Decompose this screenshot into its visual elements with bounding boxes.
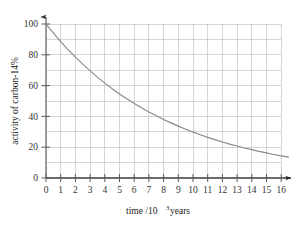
x-tick-label: 13 bbox=[232, 185, 242, 195]
y-tick-label: 0 bbox=[33, 173, 38, 183]
x-tick-label: 15 bbox=[262, 185, 272, 195]
x-tick-label: 1 bbox=[58, 185, 63, 195]
x-axis-title-tail: years bbox=[170, 206, 190, 216]
y-tick-label: 100 bbox=[24, 19, 39, 29]
x-tick-label: 11 bbox=[203, 185, 212, 195]
y-axis-title: activity of carbon-14% bbox=[10, 57, 20, 145]
x-tick-label: 10 bbox=[188, 185, 198, 195]
x-tick-label: 12 bbox=[218, 185, 228, 195]
y-tick-label: 40 bbox=[29, 112, 39, 122]
x-tick-label: 9 bbox=[176, 185, 181, 195]
x-tick-label: 5 bbox=[117, 185, 122, 195]
x-tick-label: 16 bbox=[276, 185, 286, 195]
y-tick-label: 60 bbox=[29, 81, 39, 91]
chart-svg: 100 80 60 40 20 0 0 1 2 3 4 5 6 7 8 9 10… bbox=[0, 0, 301, 226]
x-tick-label: 6 bbox=[132, 185, 137, 195]
x-tick-label: 8 bbox=[161, 185, 166, 195]
x-tick-label: 0 bbox=[44, 185, 49, 195]
x-tick-label: 4 bbox=[102, 185, 107, 195]
y-tick-labels: 100 80 60 40 20 0 bbox=[24, 19, 39, 183]
carbon-14-decay-chart: 100 80 60 40 20 0 0 1 2 3 4 5 6 7 8 9 10… bbox=[0, 0, 301, 226]
x-tick-label: 3 bbox=[88, 185, 93, 195]
y-tick-label: 20 bbox=[29, 142, 39, 152]
x-tick-label: 14 bbox=[247, 185, 257, 195]
x-tick-label: 2 bbox=[73, 185, 78, 195]
x-tick-label: 7 bbox=[147, 185, 152, 195]
x-axis-title-superscript: 3 bbox=[166, 204, 169, 211]
x-axis-title: time /10 3 years bbox=[126, 204, 190, 216]
y-tick-label: 80 bbox=[29, 50, 39, 60]
x-axis-title-main: time /10 bbox=[126, 206, 158, 216]
decay-curve bbox=[46, 24, 289, 157]
x-tick-labels: 0 1 2 3 4 5 6 7 8 9 10 11 12 13 14 15 16 bbox=[44, 185, 287, 195]
